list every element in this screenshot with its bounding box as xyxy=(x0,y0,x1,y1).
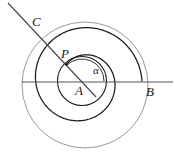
figure-canvas xyxy=(0,0,174,161)
point-P-marker xyxy=(65,63,68,66)
label-P: P xyxy=(61,47,69,60)
label-C: C xyxy=(32,15,41,28)
archimedean-spiral xyxy=(35,28,142,121)
label-A: A xyxy=(75,84,83,97)
label-B: B xyxy=(146,85,154,98)
geometry-figure: C P A B α xyxy=(0,0,174,161)
label-angle-alpha: α xyxy=(93,65,99,76)
